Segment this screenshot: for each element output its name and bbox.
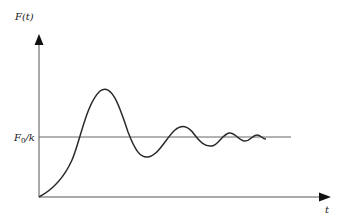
response-curve (39, 89, 266, 197)
response-diagram: F(t) t F0/k (0, 0, 347, 219)
steady-state-label: F0/k (13, 132, 35, 145)
x-axis-arrow-icon (319, 193, 331, 202)
y-axis-label: F(t) (14, 11, 34, 22)
y-axis-arrow-icon (35, 34, 44, 45)
x-axis-label: t (325, 204, 330, 215)
